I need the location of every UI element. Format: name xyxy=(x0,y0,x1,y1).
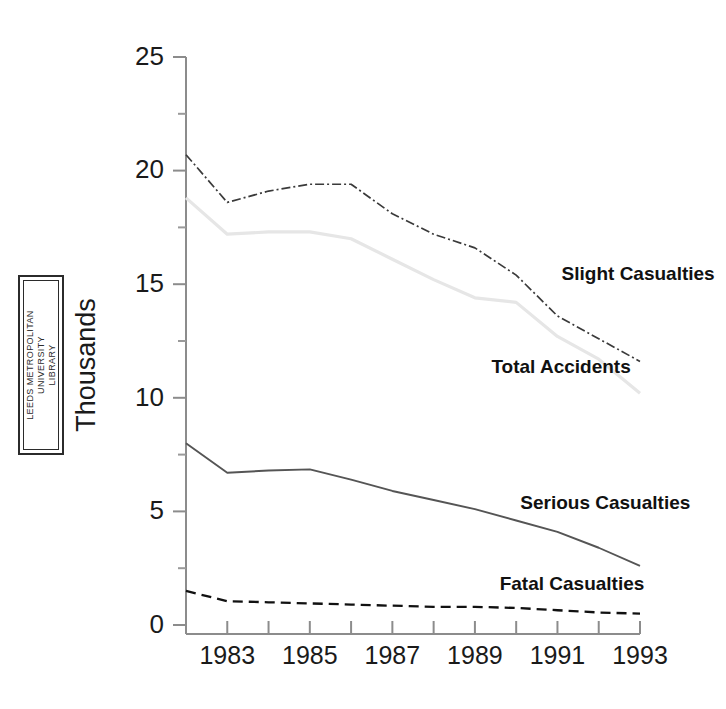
stamp-line-1: LEEDS METROPOLITAN xyxy=(25,310,36,420)
y-tick-label-10: 10 xyxy=(135,382,164,412)
x-tick-label-1989: 1989 xyxy=(447,641,503,669)
y-tick-label-15: 15 xyxy=(135,268,164,298)
series-layer xyxy=(186,155,640,614)
stamp-line-2: UNIVERSITY xyxy=(36,310,47,420)
line-chart-figure: 0510152025 198319851987198919911993 Thou… xyxy=(0,0,726,709)
series-line-slight-casualties xyxy=(186,155,640,362)
x-tick-label-1985: 1985 xyxy=(282,641,338,669)
series-label-fatal-casualties: Fatal Casualties xyxy=(500,573,645,594)
library-stamp-border: LEEDS METROPOLITAN UNIVERSITY LIBRARY xyxy=(23,280,59,450)
series-label-total-accidents: Total Accidents xyxy=(491,356,630,377)
y-tick-label-5: 5 xyxy=(150,495,164,525)
series-label-slight-casualties: Slight Casualties xyxy=(562,263,715,284)
series-line-fatal-casualties xyxy=(186,591,640,614)
y-tick-label-25: 25 xyxy=(135,41,164,71)
y-tick-label-20: 20 xyxy=(135,154,164,184)
stamp-line-3: LIBRARY xyxy=(47,310,58,420)
x-tick-label-1993: 1993 xyxy=(612,641,668,669)
y-axis-title: Thousands xyxy=(71,298,101,432)
chart-canvas: 0510152025 198319851987198919911993 Thou… xyxy=(0,0,726,709)
library-stamp: LEEDS METROPOLITAN UNIVERSITY LIBRARY xyxy=(18,275,64,455)
x-tick-label-1983: 1983 xyxy=(199,641,255,669)
x-tick-label-1991: 1991 xyxy=(530,641,586,669)
x-axis: 198319851987198919911993 xyxy=(186,621,668,669)
library-stamp-text: LEEDS METROPOLITAN UNIVERSITY LIBRARY xyxy=(25,310,58,420)
series-label-layer: Slight CasualtiesTotal AccidentsSerious … xyxy=(491,263,714,594)
y-tick-label-0: 0 xyxy=(150,609,164,639)
y-axis: 0510152025 xyxy=(135,41,186,639)
series-label-serious-casualties: Serious Casualties xyxy=(520,492,690,513)
x-tick-label-1987: 1987 xyxy=(365,641,421,669)
